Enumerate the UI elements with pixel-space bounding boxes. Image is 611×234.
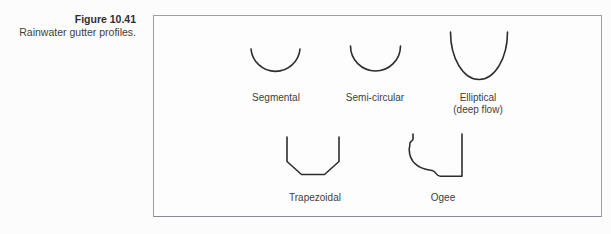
ogee-label: Ogee [431,192,455,204]
segmental-profile-outline [251,49,300,71]
figure-number: Figure 10.41 [2,13,136,26]
figure-caption: Figure 10.41 Rainwater gutter profiles. [2,13,136,39]
segmental-profile-drawing [249,46,302,74]
elliptical-profile-drawing [449,30,509,82]
ogee-profile-outline [409,134,462,176]
elliptical-label-line2: (deep flow) [453,104,502,116]
figure-page: { "colors": { "background": "#fcfcfc", "… [0,0,611,234]
semi-circular-profile-outline [351,46,401,71]
elliptical-profile-outline [451,32,508,80]
semi-circular-label: Semi-circular [346,92,404,104]
elliptical-label: Elliptical (deep flow) [453,92,502,116]
trapezoidal-profile-drawing [285,136,342,177]
ogee-profile-drawing [408,133,464,179]
trapezoidal-profile-outline [287,137,339,175]
trapezoidal-label: Trapezoidal [289,192,341,204]
figure-title: Rainwater gutter profiles. [2,26,136,39]
elliptical-label-line1: Elliptical [453,92,502,104]
semi-circular-profile-drawing [349,44,402,74]
segmental-label: Segmental [252,92,300,104]
